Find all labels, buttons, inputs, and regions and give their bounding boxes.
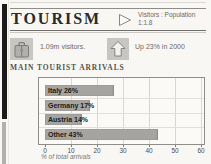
bar-italy: Italy 26% [45,85,114,96]
x-axis: 0102030405060 [0,145,211,157]
v-gridline [175,78,176,144]
bar-label: Italy 26% [48,85,78,96]
section-heading: MAIN TOURIST ARRIVALS [10,63,125,72]
bar-label: Austria 14% [48,114,88,125]
ratio-label: Visitors : Population [138,11,195,19]
bar-label: Germany 17% [48,100,94,111]
x-tick-label: 20 [93,147,100,154]
page-edge-black-strip [2,4,7,119]
x-axis-label: % of total arrivals [41,153,91,160]
page-edge-gray-strip [2,122,6,164]
bar-chart-plot: Italy 26%Germany 17%Austria 14%Other 43% [39,78,204,144]
page-fold-line [8,0,9,164]
visitors-stat-text: 1.09m visitors. [40,43,85,50]
visitor-population-ratio: Visitors : Population 1:1.8 [138,11,195,27]
bar-chart: Italy 26%Germany 17%Austria 14%Other 43% [38,77,205,145]
page-title: TOURISM [11,10,101,28]
header-bottom-rule-2 [10,32,206,33]
header-bottom-rule [10,30,206,31]
header-top-faint-rule [10,2,206,3]
h-gridline [39,98,204,99]
h-gridline [39,127,204,128]
up-arrow-icon [107,38,129,60]
x-tick-label: 40 [145,147,152,154]
x-tick-label: 50 [171,147,178,154]
v-gridline [201,78,202,144]
ratio-value: 1:1.8 [138,19,195,27]
growth-stat-text: Up 23% in 2000 [135,43,185,50]
x-tick-label: 60 [197,147,204,154]
bar-label: Other 43% [48,129,83,140]
tourism-infographic-panel: TOURISM Visitors : Population 1:1.8 1.09… [0,0,211,164]
header-top-rule [10,8,206,9]
suitcase-icon [10,38,33,60]
triangle-right-icon [118,13,132,31]
bar-germany: Germany 17% [45,100,90,111]
bar-other: Other 43% [45,129,158,140]
bar-austria: Austria 14% [45,114,82,125]
x-tick-label: 30 [119,147,126,154]
